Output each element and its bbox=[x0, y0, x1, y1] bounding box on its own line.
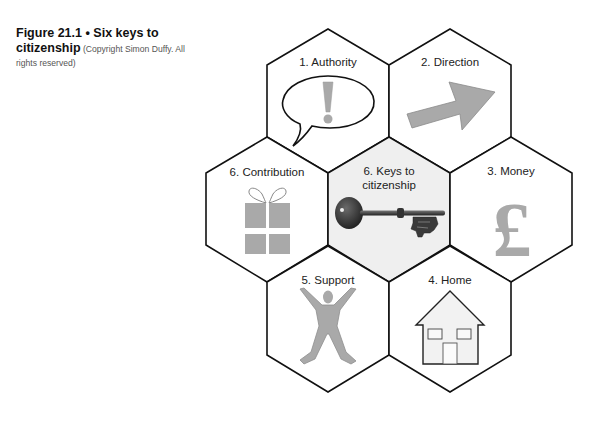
hex-authority-label: 1. Authority bbox=[299, 56, 357, 68]
hex-keys-label-line1: 6. Keys to bbox=[363, 165, 414, 177]
hex-support-label: 5. Support bbox=[301, 274, 355, 286]
hex-home-label: 4. Home bbox=[428, 274, 471, 286]
hex-money-label: 3. Money bbox=[487, 165, 535, 177]
hex-contribution-label: 6. Contribution bbox=[230, 166, 305, 178]
hex-direction-label: 2. Direction bbox=[421, 56, 479, 68]
six-keys-hex-diagram: 1. Authority 2. Direction 6. Contributio… bbox=[0, 0, 601, 426]
hex-keys-label-line2: citizenship bbox=[362, 179, 416, 191]
pound-sign-icon: £ bbox=[493, 186, 532, 273]
